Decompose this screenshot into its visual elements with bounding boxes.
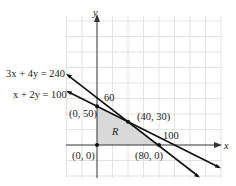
y-axis-label: y bbox=[92, 7, 98, 18]
vertex-label-40-30: (40, 30) bbox=[137, 111, 171, 123]
vertex-origin bbox=[95, 143, 99, 147]
lp-graph: y x 3x + 4y = 240 x + 2y = 100 60 100 R … bbox=[0, 0, 236, 186]
line2-equation-label: x + 2y = 100 bbox=[13, 89, 67, 100]
x-axis-label: x bbox=[223, 140, 229, 151]
line1-equation-label: 3x + 4y = 240 bbox=[6, 68, 65, 79]
vertex-40-30 bbox=[126, 120, 130, 124]
y-intercept-label: 60 bbox=[104, 92, 115, 103]
x-intercept-label: 100 bbox=[163, 130, 179, 141]
vertex-label-0-50: (0, 50) bbox=[69, 108, 97, 120]
constraint-line-3x-4y-240 bbox=[66, 74, 200, 178]
vertex-label-80-0: (80, 0) bbox=[135, 150, 163, 162]
region-label: R bbox=[111, 126, 119, 137]
vertex-label-0-0: (0, 0) bbox=[72, 150, 95, 162]
vertex-80-0 bbox=[157, 143, 161, 147]
